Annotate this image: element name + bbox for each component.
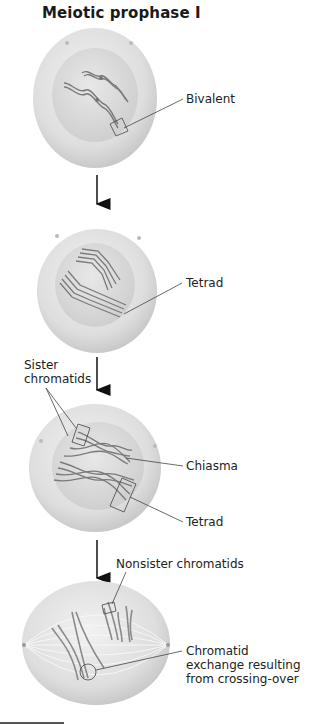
label-nonsister-chromatids: Nonsister chromatids bbox=[116, 557, 244, 571]
centriole bbox=[55, 234, 59, 238]
stage-2-cell bbox=[37, 229, 182, 353]
centriole bbox=[153, 444, 157, 448]
centriole bbox=[137, 236, 141, 240]
stage-3-cell bbox=[29, 388, 183, 532]
centriole bbox=[65, 41, 69, 45]
centriole bbox=[22, 643, 26, 647]
label-exchange-line3: from crossing-over bbox=[186, 672, 299, 686]
stage-4-cell bbox=[22, 572, 182, 705]
label-sister-chromatids-line2: chromatids bbox=[24, 372, 91, 386]
centriole bbox=[166, 643, 170, 647]
centriole bbox=[39, 439, 43, 443]
cell-membrane bbox=[22, 581, 170, 705]
label-exchange-line1: Chromatid bbox=[186, 644, 249, 658]
label-exchange-line2: exchange resulting bbox=[186, 658, 301, 672]
label-sister-chromatids-line1: Sister bbox=[24, 358, 58, 372]
centriole bbox=[129, 41, 133, 45]
label-bivalent: Bivalent bbox=[186, 92, 235, 106]
label-chiasma: Chiasma bbox=[186, 459, 238, 473]
label-tetrad: Tetrad bbox=[186, 276, 223, 290]
stage-1-cell bbox=[33, 28, 183, 168]
label-tetrad-2: Tetrad bbox=[186, 515, 223, 529]
